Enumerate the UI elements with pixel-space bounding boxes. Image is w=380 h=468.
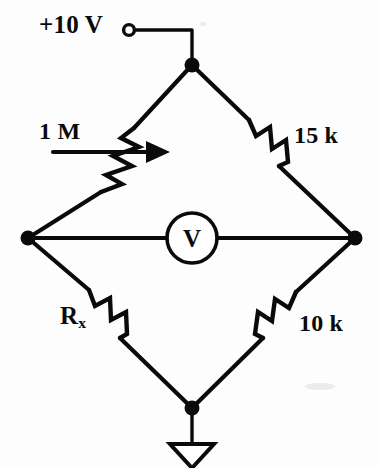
resistor-rx-subscript: x bbox=[78, 314, 86, 331]
node-dot-right bbox=[348, 231, 363, 246]
circuit-diagram: V +10 V 1 M 15 k Rx 10 k bbox=[0, 0, 380, 468]
pot-lower-lead bbox=[28, 192, 101, 238]
bridge-arm-group: V bbox=[28, 213, 355, 263]
supply-lead-group bbox=[124, 25, 192, 65]
scan-artifact-speck bbox=[200, 22, 206, 26]
resistor-rx-value-label: Rx bbox=[60, 302, 86, 330]
ground-group bbox=[170, 408, 214, 468]
circuit-schematic-canvas: V bbox=[0, 0, 380, 468]
node-dot-top bbox=[185, 58, 200, 73]
r10k-upper-lead bbox=[296, 238, 355, 292]
r10k-resistor-zigzag-icon bbox=[255, 292, 296, 338]
potentiometer-value-label: 1 M bbox=[39, 118, 80, 145]
node-dot-bottom bbox=[185, 401, 200, 416]
rx-lower-lead bbox=[120, 338, 192, 408]
node-dot-left bbox=[21, 231, 36, 246]
resistor-rx-symbol: R bbox=[60, 302, 78, 329]
scan-artifact-speck bbox=[305, 383, 335, 390]
r15k-resistor-zigzag-icon bbox=[249, 120, 288, 166]
rx-resistor-zigzag-icon bbox=[89, 290, 127, 338]
supply-lead-wire bbox=[136, 30, 192, 65]
resistor-15k-value-label: 15 k bbox=[294, 122, 338, 149]
r10k-lower-lead bbox=[192, 338, 263, 408]
potentiometer-wiper-arrow-icon bbox=[146, 141, 170, 163]
voltmeter-label: V bbox=[183, 225, 201, 252]
rx-upper-lead bbox=[28, 238, 89, 290]
branch-top-left bbox=[28, 65, 192, 238]
branch-bottom-left bbox=[28, 238, 192, 408]
supply-terminal-circle-icon bbox=[124, 25, 135, 36]
branch-top-right bbox=[192, 65, 355, 238]
ground-triangle-icon bbox=[170, 444, 214, 468]
potentiometer-zigzag-icon bbox=[101, 128, 139, 192]
r15k-upper-lead bbox=[192, 65, 249, 120]
r15k-lower-lead bbox=[279, 166, 355, 238]
supply-voltage-label: +10 V bbox=[39, 11, 103, 39]
resistor-10k-value-label: 10 k bbox=[299, 310, 343, 337]
pot-upper-lead bbox=[134, 65, 192, 128]
